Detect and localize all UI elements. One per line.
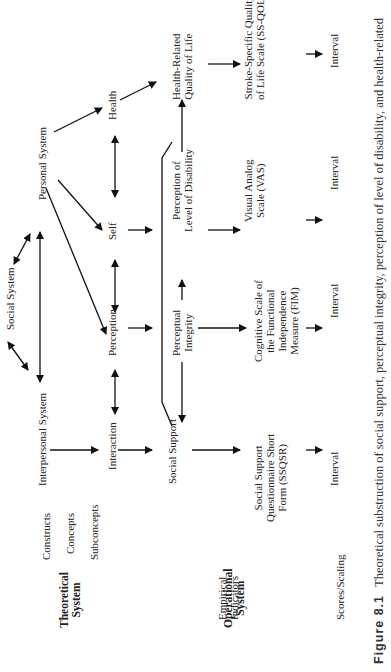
vas-line1: Visual Analog [242,159,254,222]
level-subconcepts: Subconcepts [88,504,100,560]
ssqol-line2: of Life Scale (SS-QOL) [254,0,266,100]
node-interpersonal-system: Interpersonal System [36,393,48,486]
ssqsr-line2: Questionnaire Short [264,434,276,522]
node-social-support: Social Support [166,419,178,484]
level-concepts: Concepts [64,513,76,554]
node-perceptual-integrity: Perceptual Integrity [170,310,194,356]
scale-ssqsr: Interval [328,452,340,486]
scale-fim: Interval [328,284,340,318]
node-interaction: Interaction [106,422,118,470]
scale-ssqol: Interval [328,34,340,68]
perceptual-integrity-line2: Integrity [182,310,194,356]
indicator-fim: Cognitive Scale of the Functional Indepe… [252,280,300,362]
theoretical-system-heading: Theoretical System [58,572,82,628]
theoretical-title-line2: System [70,572,82,628]
figure-caption: Figure 8.1Theoretical substruction of so… [372,18,387,664]
ssqsr-line3: Form (SSQSR) [276,434,288,522]
node-personal-system: Personal System [36,127,48,200]
hrqol-line2: Quality of Life [182,33,194,100]
node-perception: Perception [106,309,118,356]
indicator-ss-qol: Stroke-Specific Quality of Life Scale (S… [242,0,266,100]
indicator-vas: Visual Analog Scale (VAS) [242,159,266,222]
scale-vas: Interval [328,156,340,190]
perception-disability-line1: Perception of [170,149,182,232]
fim-line1: Cognitive Scale of [252,280,264,362]
vas-line2: Scale (VAS) [254,159,266,222]
level-constructs: Constructs [40,513,52,560]
fim-line4: Measure (FIM) [288,280,300,362]
fim-line2: the Functional [264,280,276,362]
ssqol-line1: Stroke-Specific Quality [242,0,254,100]
level-scores-scaling: Scores/Scaling [334,555,346,620]
indicator-ssqsr: Social Support Questionnaire Short Form … [252,434,288,522]
node-social-system: Social System [4,267,16,330]
level-empirical-indicators: Empirical Indicators [216,576,240,620]
perception-disability-line2: Level of Disability [182,149,194,232]
empirical-line2: Indicators [228,576,240,620]
fim-line3: Independence [276,280,288,362]
rotated-figure-page: Theoretical System Constructs Concepts S… [0,0,391,672]
node-self: Self [106,222,118,240]
perceptual-integrity-line1: Perceptual [170,310,182,356]
figure-caption-text: Theoretical substruction of social suppo… [372,18,386,587]
ssqsr-line1: Social Support [252,434,264,522]
figure-label: Figure 8.1 [372,595,386,664]
theoretical-title-line1: Theoretical [58,572,70,628]
hrqol-line1: Health-Related [170,33,182,100]
node-health: Health [106,91,118,120]
node-perception-level-disability: Perception of Level of Disability [170,149,194,232]
empirical-line1: Empirical [216,576,228,620]
node-health-related-quality-of-life: Health-Related Quality of Life [170,33,194,100]
